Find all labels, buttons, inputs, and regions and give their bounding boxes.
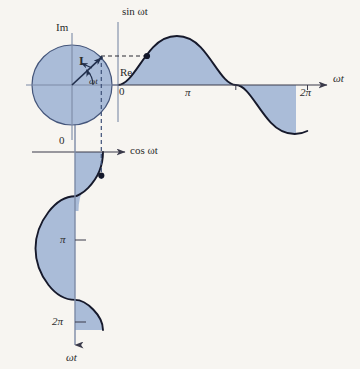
cosine-axis-label: cos ωt [130,145,158,156]
tick-label-pi-bottom: π [60,234,66,245]
tick-label-2pi-right: 2π [300,87,311,98]
angle-label: ωt [89,77,98,86]
origin-label-right: 0 [119,86,125,97]
cosine-wave-group [30,152,103,330]
tick-label-2pi-bottom: 2π [52,316,63,327]
imaginary-axis-label: Im [56,22,68,33]
sine-wave-fill-positive [118,36,236,85]
phasor-circle-group [26,33,118,140]
sine-axis-label-text: sin ωt [122,5,148,17]
real-axis-label: Re [120,67,132,78]
sine-wave-fill-negative [236,85,354,134]
cosine-marker-dot [98,172,104,178]
phasor-sine-cosine-diagram [0,0,360,369]
time-axis-label-bottom: ωt [66,352,77,363]
sine-marker-dot [144,53,150,59]
phasor-tip-dot [100,56,103,59]
sine-axis-label: sin ωt [122,6,148,17]
origin-label-left: 0 [59,135,65,146]
phasor-label: I [79,55,84,67]
tick-label-pi-right: π [185,87,191,98]
time-axis-label-right: ωt [333,73,344,84]
cosine-wave-fill-main [75,152,103,330]
cosine-lobe-negative [36,196,76,300]
figure-canvas: Im sin ωt Re 0 π 2π ωt 0 cos ωt π 2π ωt … [0,0,360,369]
